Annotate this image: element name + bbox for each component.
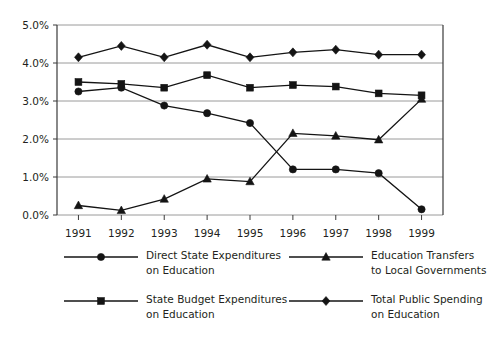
data-point-marker xyxy=(375,90,382,97)
data-point-marker xyxy=(118,81,125,88)
legend-label-line-1: State Budget Expenditures xyxy=(146,292,287,307)
series-lines xyxy=(74,40,425,213)
legend-label: Education Transfersto Local Governments xyxy=(365,248,486,277)
data-point-marker xyxy=(246,119,253,126)
series-line xyxy=(78,88,421,210)
legend-label-line-2: on Education xyxy=(146,307,287,322)
data-point-marker xyxy=(322,297,330,306)
legend-key-circle xyxy=(62,250,140,264)
chart-root: 0.0%1.0%2.0%3.0%4.0%5.0% 199119921993199… xyxy=(0,0,490,344)
series-line xyxy=(78,99,421,210)
data-point-marker xyxy=(247,84,254,91)
legend-entry[interactable]: Education Transfersto Local Governments xyxy=(287,248,486,278)
x-axis-tick-label: 1996 xyxy=(280,227,307,239)
data-point-marker xyxy=(97,253,104,260)
legend-marker-triangle-icon xyxy=(287,250,365,264)
x-axis-tickmarks xyxy=(78,215,421,220)
legend-label: Total Public Spendingon Education xyxy=(365,292,483,321)
legend-label-line-2: to Local Governments xyxy=(371,263,486,278)
data-point-marker xyxy=(375,170,382,177)
legend-marker-circle-icon xyxy=(62,250,140,264)
y-axis-tick-label: 5.0% xyxy=(22,19,49,31)
x-axis-tick-label: 1997 xyxy=(322,227,349,239)
data-point-marker xyxy=(204,110,211,117)
legend-entry[interactable]: Total Public Spendingon Education xyxy=(287,292,486,322)
data-point-marker xyxy=(98,298,105,305)
data-point-marker xyxy=(375,50,383,59)
series-square xyxy=(75,72,425,99)
legend-entry[interactable]: Direct State Expenditureson Education xyxy=(62,248,287,278)
data-point-marker xyxy=(160,53,168,62)
legend-label-line-1: Education Transfers xyxy=(371,248,486,263)
legend-label: Direct State Expenditureson Education xyxy=(140,248,281,277)
data-point-marker xyxy=(332,166,339,173)
legend-label: State Budget Expenditureson Education xyxy=(140,292,287,321)
y-axis-tick-label: 4.0% xyxy=(22,57,49,69)
legend-key-triangle xyxy=(287,250,365,264)
x-axis-tick-label: 1993 xyxy=(151,227,178,239)
legend-entry[interactable]: State Budget Expenditureson Education xyxy=(62,292,287,322)
data-point-marker xyxy=(74,53,82,62)
data-point-marker xyxy=(74,201,82,209)
y-axis-tick-label: 0.0% xyxy=(22,209,49,221)
series-triangle xyxy=(74,95,425,214)
x-axis-tick-label: 1999 xyxy=(408,227,435,239)
legend-marker-square-icon xyxy=(62,294,140,308)
legend-column-left: Direct State Expenditureson EducationSta… xyxy=(62,248,287,336)
x-axis-tick-label: 1994 xyxy=(194,227,221,239)
data-point-marker xyxy=(204,72,211,79)
data-point-marker xyxy=(160,195,168,203)
legend-label-line-1: Total Public Spending xyxy=(371,292,483,307)
data-point-marker xyxy=(418,206,425,213)
legend-label-line-2: on Education xyxy=(371,307,483,322)
data-point-marker xyxy=(332,83,339,90)
data-point-marker xyxy=(161,102,168,109)
data-point-marker xyxy=(289,48,297,57)
data-point-marker xyxy=(246,53,254,62)
legend-label-line-2: on Education xyxy=(146,263,281,278)
data-point-marker xyxy=(203,175,211,183)
data-point-marker xyxy=(332,45,340,54)
data-point-marker xyxy=(75,79,82,86)
data-point-marker xyxy=(117,41,125,50)
data-point-marker xyxy=(289,129,297,137)
x-axis-tick-labels: 199119921993199419951996199719981999 xyxy=(65,227,435,239)
y-axis-tick-label: 2.0% xyxy=(22,133,49,145)
y-axis-tick-label: 3.0% xyxy=(22,95,49,107)
data-point-marker xyxy=(161,84,168,91)
x-axis-tick-label: 1995 xyxy=(237,227,264,239)
x-axis-tick-label: 1991 xyxy=(65,227,92,239)
data-point-marker xyxy=(289,166,296,173)
legend-label-line-1: Direct State Expenditures xyxy=(146,248,281,263)
series-circle xyxy=(75,84,425,213)
data-point-marker xyxy=(75,88,82,95)
line-chart-plot: 0.0%1.0%2.0%3.0%4.0%5.0% 199119921993199… xyxy=(0,0,490,250)
y-axis-tick-label: 1.0% xyxy=(22,171,49,183)
data-point-marker xyxy=(418,50,426,59)
legend-key-diamond xyxy=(287,294,365,308)
data-point-marker xyxy=(289,82,296,89)
y-axis-tick-labels: 0.0%1.0%2.0%3.0%4.0%5.0% xyxy=(22,19,49,221)
series-diamond xyxy=(74,40,425,62)
legend-marker-diamond-icon xyxy=(287,294,365,308)
legend-column-right: Education Transfersto Local GovernmentsT… xyxy=(287,248,486,336)
x-axis-tick-label: 1992 xyxy=(108,227,135,239)
data-point-marker xyxy=(203,40,211,49)
legend-key-square xyxy=(62,294,140,308)
x-axis-tick-label: 1998 xyxy=(365,227,392,239)
chart-legend: Direct State Expenditureson EducationSta… xyxy=(0,248,490,344)
